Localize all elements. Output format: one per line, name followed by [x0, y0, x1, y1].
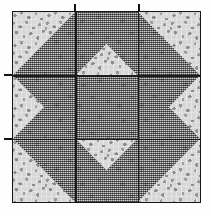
cell-bottom-center [75, 139, 137, 202]
seam-vertical-left [75, 12, 77, 202]
cell-center [75, 75, 137, 138]
quilt-block-image [0, 0, 211, 216]
cell-bottom-left [13, 139, 75, 202]
cell-middle-right [138, 75, 200, 138]
cell-middle-left [13, 75, 75, 138]
seam-horizontal-top [13, 75, 200, 77]
seam-horizontal-bottom [13, 139, 200, 141]
cell-top-center [75, 12, 137, 75]
cell-top-left [13, 12, 75, 75]
quilt-block [12, 11, 201, 203]
seam-vertical-right [138, 12, 140, 202]
cell-top-right [138, 12, 200, 75]
quilt-grid [13, 12, 200, 202]
cell-bottom-right [138, 139, 200, 202]
